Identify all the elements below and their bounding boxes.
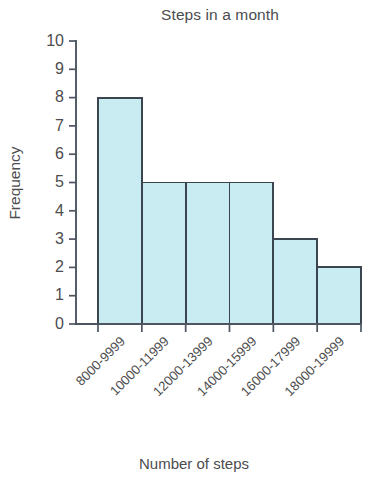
histogram-bar bbox=[273, 239, 317, 324]
bars-group bbox=[98, 98, 361, 324]
y-ticks-group: 012345678910 bbox=[46, 32, 76, 332]
histogram-chart: Steps in a month Frequency 012345678910 … bbox=[0, 0, 368, 483]
y-tick-label: 8 bbox=[55, 88, 64, 105]
y-tick-label: 2 bbox=[55, 258, 64, 275]
y-tick-label: 10 bbox=[46, 32, 64, 49]
histogram-bar bbox=[230, 183, 274, 325]
plot-area: 012345678910 8000-999910000-1199912000-1… bbox=[0, 0, 368, 450]
x-ticks-group bbox=[98, 324, 361, 332]
y-tick-label: 0 bbox=[55, 315, 64, 332]
y-tick-label: 7 bbox=[55, 117, 64, 134]
y-tick-label: 4 bbox=[55, 202, 64, 219]
y-tick-label: 5 bbox=[55, 173, 64, 190]
histogram-bar bbox=[186, 183, 230, 325]
x-tick-labels-group: 8000-999910000-1199912000-1399914000-159… bbox=[73, 334, 347, 400]
histogram-bar bbox=[98, 98, 142, 324]
x-axis-title: Number of steps bbox=[0, 455, 368, 472]
y-tick-label: 9 bbox=[55, 60, 64, 77]
histogram-bar bbox=[142, 183, 186, 325]
y-tick-label: 3 bbox=[55, 230, 64, 247]
histogram-bar bbox=[317, 267, 361, 324]
y-tick-label: 6 bbox=[55, 145, 64, 162]
y-tick-label: 1 bbox=[55, 286, 64, 303]
